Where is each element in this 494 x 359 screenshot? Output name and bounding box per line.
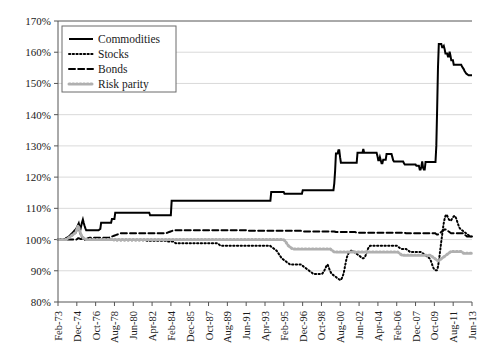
y-tick-label: 140% bbox=[25, 109, 51, 121]
x-tick-label: Dec-74 bbox=[72, 310, 83, 342]
y-tick-label: 130% bbox=[25, 140, 51, 152]
x-tick-label: Jun-91 bbox=[241, 311, 252, 340]
x-tick-label: Aug-00 bbox=[335, 311, 346, 343]
y-tick-label: 80% bbox=[31, 296, 51, 308]
y-tick-label: 100% bbox=[25, 234, 51, 246]
y-tick-label: 90% bbox=[31, 265, 51, 277]
x-tick-label: Feb-84 bbox=[166, 310, 177, 340]
x-tick-label: Feb-95 bbox=[279, 311, 290, 341]
x-tick-label: Oct-76 bbox=[91, 311, 102, 340]
x-tick-label: Jun-13 bbox=[467, 311, 478, 340]
x-tick-label: Jun-80 bbox=[128, 311, 139, 340]
x-tick-label: Aug-11 bbox=[448, 311, 459, 343]
y-axis-ticks bbox=[54, 21, 58, 302]
legend-label-risk-parity: Risk parity bbox=[98, 78, 149, 91]
x-tick-label: Apr-04 bbox=[373, 310, 384, 341]
legend-label-bonds: Bonds bbox=[98, 63, 128, 75]
legend-label-stocks: Stocks bbox=[98, 48, 129, 60]
y-tick-label: 110% bbox=[26, 202, 51, 214]
x-tick-label: Oct-87 bbox=[204, 311, 215, 340]
series-line-bonds bbox=[58, 230, 472, 240]
x-tick-label: Jun-02 bbox=[354, 311, 365, 340]
x-tick-label: Dec-85 bbox=[185, 311, 196, 342]
x-tick-label: Aug-89 bbox=[222, 311, 233, 343]
y-tick-label: 170% bbox=[25, 15, 51, 27]
chart-container: 80%90%100%110%120%130%140%150%160%170% F… bbox=[0, 0, 494, 359]
x-axis-ticks bbox=[58, 302, 472, 306]
x-tick-label: Apr-82 bbox=[147, 311, 158, 341]
line-chart: 80%90%100%110%120%130%140%150%160%170% F… bbox=[0, 0, 494, 359]
x-axis-labels: Feb-73Dec-74Oct-76Aug-78Jun-80Apr-82Feb-… bbox=[53, 310, 478, 343]
x-tick-label: Feb-06 bbox=[392, 311, 403, 341]
y-tick-label: 120% bbox=[25, 171, 51, 183]
x-tick-label: Aug-78 bbox=[109, 311, 120, 343]
y-tick-label: 150% bbox=[25, 77, 51, 89]
x-tick-label: Feb-73 bbox=[53, 311, 64, 341]
x-tick-label: Oct-09 bbox=[429, 311, 440, 340]
y-tick-label: 160% bbox=[25, 46, 51, 58]
x-tick-label: Dec-96 bbox=[298, 311, 309, 342]
y-axis-labels: 80%90%100%110%120%130%140%150%160%170% bbox=[25, 15, 51, 308]
x-tick-label: Oct-98 bbox=[316, 311, 327, 340]
chart-legend: CommoditiesStocksBondsRisk parity bbox=[62, 26, 176, 92]
x-tick-label: Dec-07 bbox=[411, 311, 422, 342]
legend-label-commodities: Commodities bbox=[98, 33, 161, 45]
series-line-stocks bbox=[58, 215, 472, 281]
x-tick-label: Apr-93 bbox=[260, 311, 271, 341]
